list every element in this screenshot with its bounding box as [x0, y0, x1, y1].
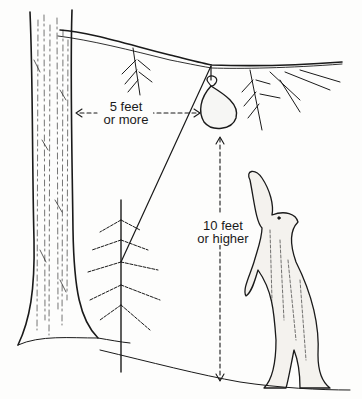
vertical-measure [216, 137, 224, 381]
tree-trunk [18, 10, 130, 345]
vertical-label-line2: or higher [191, 232, 255, 245]
bear-bag-illustration: 5 feet or more 10 feet or higher [0, 0, 362, 399]
food-bag [201, 76, 237, 128]
horizontal-distance-label: 5 feet or more [99, 100, 153, 126]
illustration-drawing [0, 0, 362, 399]
young-fir-tree [88, 200, 160, 372]
vertical-distance-label: 10 feet or higher [190, 219, 256, 245]
horizontal-label-line2: or more [100, 113, 152, 126]
standing-bear [245, 171, 330, 388]
